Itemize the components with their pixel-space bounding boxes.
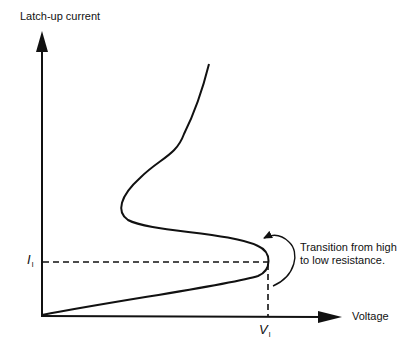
y-axis-arrow-icon (36, 31, 48, 52)
y-axis (36, 31, 48, 316)
transition-annotation: Transition from high to low resistance. (300, 241, 397, 267)
current-marker-label: Il (27, 252, 33, 269)
current-subscript: l (32, 260, 34, 269)
annotation-line-2: to low resistance. (300, 254, 397, 267)
current-symbol: I (27, 252, 31, 267)
latchup-diagram (0, 0, 411, 352)
voltage-marker-label: Vl (259, 322, 270, 339)
y-axis-label: Latch-up current (20, 10, 100, 22)
iv-curve (42, 64, 269, 315)
x-axis-arrow-icon (318, 311, 342, 323)
annotation-line-1: Transition from high (300, 241, 397, 254)
voltage-symbol: V (259, 322, 268, 337)
x-axis (41, 311, 342, 323)
x-axis-label: Voltage (352, 310, 389, 322)
voltage-subscript: l (269, 330, 271, 339)
